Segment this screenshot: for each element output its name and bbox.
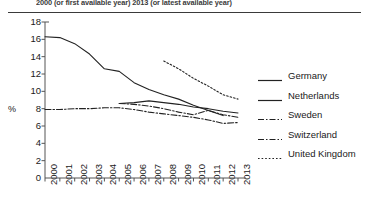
- chart-legend: GermanyNetherlandsSwedenSwitzerlandUnite…: [258, 66, 369, 164]
- legend-item-switzerland: Switzerland: [258, 125, 369, 145]
- legend-item-label: Netherlands: [288, 90, 339, 101]
- legend-item-label: Switzerland: [288, 129, 337, 140]
- series-line-netherlands: [119, 101, 238, 113]
- legend-item-germany: Germany: [258, 66, 369, 86]
- legend-item-label: United Kingdom: [288, 148, 356, 159]
- legend-item-sweden: Sweden: [258, 105, 369, 125]
- legend-line-icon: [258, 71, 282, 80]
- legend-item-netherlands: Netherlands: [258, 86, 369, 106]
- legend-item-label: Germany: [288, 70, 327, 81]
- chart-series-lines: [45, 37, 238, 124]
- series-line-united-kingdom: [164, 61, 238, 99]
- legend-item-united-kingdom: United Kingdom: [258, 144, 369, 164]
- legend-line-icon: [258, 110, 282, 119]
- legend-line-icon: [258, 91, 282, 100]
- series-line-germany: [45, 37, 223, 116]
- legend-line-icon: [258, 130, 282, 139]
- legend-line-icon: [258, 149, 282, 158]
- legend-item-label: Sweden: [288, 109, 322, 120]
